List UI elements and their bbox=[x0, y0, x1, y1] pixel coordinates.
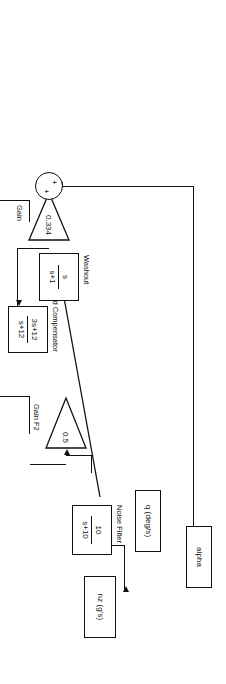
lead-compensator-denominator: s+12 bbox=[17, 316, 28, 344]
washout-caption: Washout bbox=[83, 255, 91, 284]
noise-filter-block[interactable]: 10 s+10 bbox=[72, 505, 112, 555]
sum-inner-junction[interactable] bbox=[35, 172, 63, 200]
washout-denominator: s+1 bbox=[48, 265, 59, 288]
lead-compensator-block[interactable]: 3s+12 s+12 bbox=[8, 306, 48, 353]
diagram-canvas: nzc (g's) alpha q (deg/s) nz (g's) F16A … bbox=[0, 0, 226, 684]
wire-sum-error-minus-riser bbox=[0, 200, 30, 201]
wire-sum-inner-riser bbox=[18, 248, 49, 249]
wire-nz-drop bbox=[57, 186, 194, 187]
wire-gain-f2-riser bbox=[30, 464, 66, 465]
sum-inner-plus-two: + bbox=[42, 189, 50, 194]
wire-nz-long bbox=[193, 186, 194, 576]
gain-f2-block[interactable]: 0.5 bbox=[44, 396, 88, 449]
washout-transfer-function: s s+1 bbox=[48, 265, 69, 288]
lead-compensator-numerator: 3s+12 bbox=[29, 313, 39, 345]
washout-block[interactable]: s s+1 bbox=[39, 253, 79, 301]
alpha-source-label: alpha bbox=[195, 547, 204, 567]
block-diagram: nzc (g's) alpha q (deg/s) nz (g's) F16A … bbox=[0, 0, 226, 684]
nz-source-block[interactable]: nz (g's) bbox=[84, 576, 116, 638]
noise-filter-transfer-function: 10 s+10 bbox=[81, 516, 102, 544]
noise-filter-numerator: 10 bbox=[93, 521, 103, 540]
alpha-source-block[interactable]: alpha bbox=[186, 526, 212, 588]
q-source-label: q (deg/s) bbox=[144, 505, 153, 537]
q-source-block[interactable]: q (deg/s) bbox=[135, 490, 161, 552]
wire-gain-f2-to-sum bbox=[29, 396, 30, 434]
gain-caption: Gain bbox=[16, 205, 24, 221]
gain-f2-value: 0.5 bbox=[44, 396, 88, 449]
arrow-to-gain-f2 bbox=[64, 449, 70, 455]
washout-numerator: s bbox=[60, 270, 70, 284]
noise-filter-denominator: s+10 bbox=[81, 516, 92, 544]
wire-noise-filter-right bbox=[91, 455, 92, 473]
wire-sum-inner-out bbox=[17, 248, 18, 276]
noise-filter-caption: Noise Filter bbox=[116, 505, 124, 543]
nz-source-label: nz (g's) bbox=[96, 594, 105, 621]
gain-f2-caption: Gain F2 bbox=[33, 404, 41, 431]
sum-inner-plus-one: + bbox=[50, 180, 58, 185]
wire-noise-filter-down bbox=[66, 455, 92, 456]
wire-alpha-to-noise-filter bbox=[124, 545, 125, 592]
wire-gainf2-feedback-riser bbox=[0, 396, 30, 397]
lead-compensator-transfer-function: 3s+12 s+12 bbox=[17, 313, 38, 345]
arrow-to-noise-filter bbox=[123, 586, 129, 592]
